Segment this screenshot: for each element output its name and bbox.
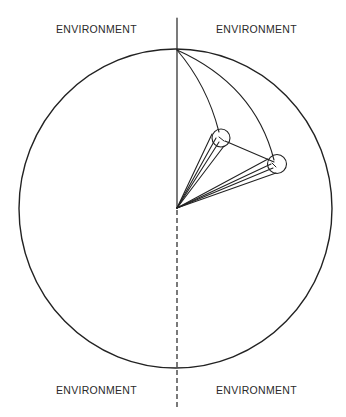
fan-to-circle-2 xyxy=(177,159,276,208)
circle-1-inner-mark xyxy=(219,137,224,141)
arc-middle xyxy=(177,50,274,160)
diagram-canvas xyxy=(0,0,346,417)
connector-line xyxy=(225,141,274,162)
circle-2-inner-mark xyxy=(272,163,276,167)
arc-inner xyxy=(177,50,219,132)
main-circle xyxy=(19,49,332,368)
